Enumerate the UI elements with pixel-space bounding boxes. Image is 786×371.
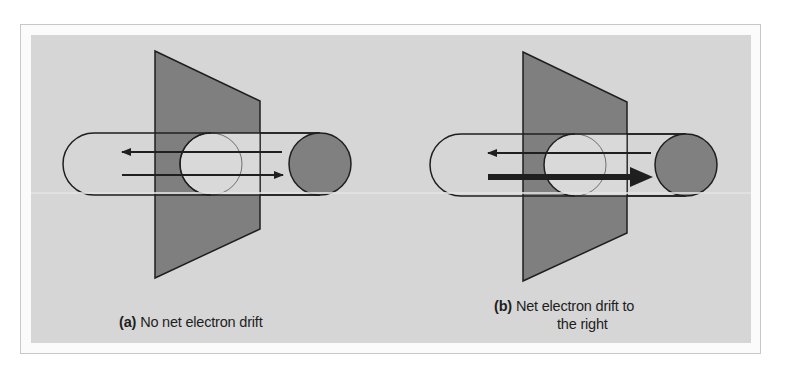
caption-b: (b)Net electron drift to the right	[494, 297, 634, 333]
end-disc-b	[655, 134, 717, 196]
caption-a: (a)No net electron drift	[119, 314, 262, 330]
panel-b	[430, 52, 717, 281]
electron-drift-diagram	[0, 0, 786, 371]
caption-b-label: (b)	[494, 298, 512, 314]
caption-b-text-line2: the right	[494, 315, 634, 333]
caption-b-text-line1: Net electron drift to	[516, 298, 634, 314]
caption-a-text: No net electron drift	[140, 314, 262, 330]
scan-artifact	[31, 192, 751, 194]
caption-a-label: (a)	[119, 314, 136, 330]
panel-a	[63, 51, 351, 278]
end-disc-a	[289, 133, 351, 195]
